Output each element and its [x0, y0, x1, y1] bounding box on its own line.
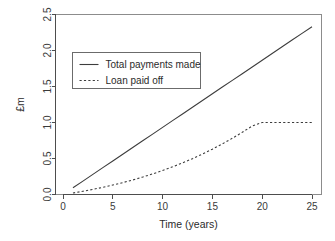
x-axis-tick-label: 20 — [257, 201, 269, 212]
x-axis-tick-label: 0 — [60, 201, 66, 212]
plot-area-border — [56, 15, 322, 195]
line-chart: 0.00.51.01.52.02.50510152025Time (years)… — [0, 0, 335, 241]
chart-legend: Total payments madeLoan paid off — [73, 53, 201, 89]
legend-label-2: Loan paid off — [106, 75, 164, 86]
y-axis-title: £m — [14, 97, 26, 112]
series-line-1 — [73, 27, 312, 188]
series-line-2 — [73, 123, 312, 193]
x-axis: 0510152025 — [60, 195, 318, 212]
y-axis-tick-label: 0.5 — [42, 151, 53, 165]
chart-figure: 0.00.51.01.52.02.50510152025Time (years)… — [0, 0, 335, 241]
y-axis-tick-label: 1.5 — [42, 79, 53, 93]
y-axis-tick-label: 2.5 — [42, 7, 53, 21]
y-axis-tick-label: 1.0 — [42, 115, 53, 129]
x-axis-tick-label: 5 — [110, 201, 116, 212]
y-axis-tick-label: 2.0 — [42, 43, 53, 57]
x-axis-tick-label: 25 — [306, 201, 318, 212]
x-axis-title: Time (years) — [159, 218, 218, 230]
y-axis-tick-label: 0.0 — [42, 187, 53, 201]
y-axis: 0.00.51.01.52.02.5 — [42, 7, 56, 201]
x-axis-tick-label: 10 — [157, 201, 169, 212]
x-axis-tick-label: 15 — [207, 201, 219, 212]
legend-label-1: Total payments made — [106, 59, 201, 70]
